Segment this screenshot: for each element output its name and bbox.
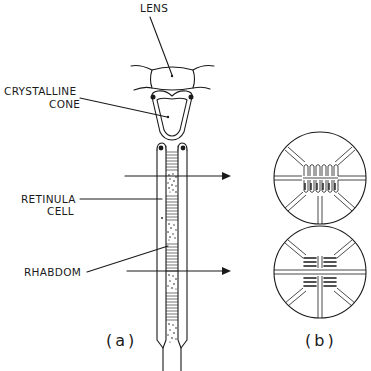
- label-retinula-cell-1: RETINULA: [21, 193, 76, 205]
- label-retinula-cell-2: CELL: [47, 205, 74, 217]
- label-crystalline-cone-1: CRYSTALLINE: [4, 85, 76, 97]
- label-rhabdom: RHABDOM: [24, 266, 81, 278]
- retinula-column: [157, 143, 187, 371]
- crystalline-cone: [151, 91, 194, 140]
- cross-section-upper: [274, 132, 366, 224]
- section-arrow-lower: [127, 267, 231, 275]
- panel-label-b: (b): [305, 331, 337, 350]
- label-lens: LENS: [140, 2, 168, 14]
- label-crystalline-cone-2: CONE: [49, 98, 80, 110]
- ommatidium-diagram: LENS CRYSTALLINE CONE RETINULA CELL RHAB…: [0, 0, 371, 371]
- cross-section-lower: [274, 226, 366, 318]
- rhabdom-stipple: [167, 172, 177, 344]
- panel-label-a: (a): [106, 331, 137, 350]
- lens: [131, 66, 214, 91]
